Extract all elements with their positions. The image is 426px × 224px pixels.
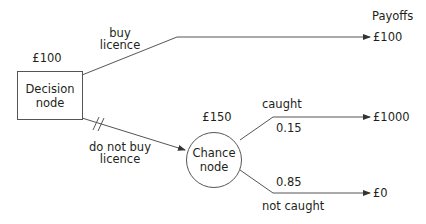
payoff-caught: £1000 [373, 111, 410, 124]
branch-caught-line [240, 117, 370, 140]
chance-node-label-1: Chance [192, 146, 235, 160]
branch-caught-label: caught [262, 98, 302, 111]
chance-node: Chance node [186, 132, 242, 188]
decision-node-label-1: Decision [26, 82, 75, 96]
chance-node-label-2: node [192, 160, 235, 174]
payoff-not-caught: £0 [373, 187, 388, 200]
decision-node: Decision node [17, 71, 83, 120]
chance-node-value: £150 [202, 111, 231, 124]
payoff-buy: £100 [373, 31, 402, 44]
branch-not-caught-probability: 0.85 [276, 176, 302, 189]
branch-not-caught-label: not caught [262, 200, 324, 213]
branch-caught-probability: 0.15 [276, 122, 302, 135]
decision-node-value: £100 [32, 52, 61, 65]
decision-node-label-2: node [26, 96, 75, 110]
branch-not-buy-label-2: licence [100, 153, 140, 166]
payoffs-header: Payoffs [372, 10, 413, 23]
branch-not-caught-line [240, 170, 370, 193]
branch-buy-label-2: licence [100, 39, 140, 52]
